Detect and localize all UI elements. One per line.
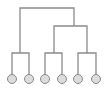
leaf-node-circle-icon xyxy=(8,75,17,84)
leaf-node-circle-icon xyxy=(92,75,101,84)
leaf-node-circle-icon xyxy=(74,75,83,84)
dendrogram-link-cluster-c xyxy=(78,53,96,75)
dendrogram-leaves xyxy=(8,75,101,84)
dendrogram-link-cluster-b xyxy=(45,53,62,75)
dendrogram-diagram xyxy=(0,0,108,90)
dendrogram-link-cluster-a xyxy=(12,53,29,75)
dendrogram-link-subtree-right-bar xyxy=(54,26,87,53)
leaf-node-circle-icon xyxy=(41,75,50,84)
leaf-node-circle-icon xyxy=(58,75,67,84)
dendrogram-links xyxy=(12,8,96,75)
dendrogram-link-root-bar xyxy=(20,8,74,53)
leaf-node-circle-icon xyxy=(25,75,34,84)
